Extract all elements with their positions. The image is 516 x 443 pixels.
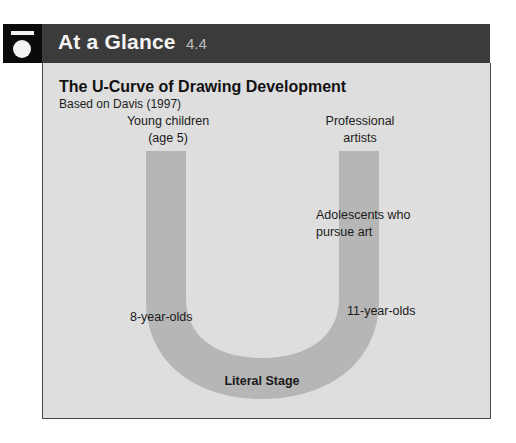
- label-professional-line1: Professional: [310, 113, 410, 130]
- label-literal-stage: Literal Stage: [202, 373, 322, 390]
- label-professional-artists: Professional artists: [310, 113, 410, 147]
- label-adolescents-line2: pursue art: [316, 224, 411, 241]
- u-curve-shape: [146, 151, 379, 399]
- label-adolescents: Adolescents who pursue art: [316, 207, 411, 241]
- label-adolescents-line1: Adolescents who: [316, 207, 411, 224]
- label-young-children-line2: (age 5): [118, 130, 218, 147]
- label-young-children: Young children (age 5): [118, 113, 218, 147]
- label-professional-line2: artists: [310, 130, 410, 147]
- label-11-year-olds: 11-year-olds: [347, 303, 416, 320]
- label-8-year-olds: 8-year-olds: [130, 309, 193, 326]
- label-young-children-line1: Young children: [118, 113, 218, 130]
